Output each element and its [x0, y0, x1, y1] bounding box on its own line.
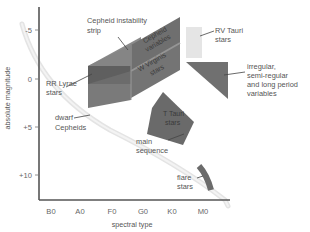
x-tick-label: G0: [138, 207, 148, 216]
rr-lyrae-label: stars: [46, 88, 62, 97]
t-tauri-label: T Tauri: [163, 110, 185, 117]
x-tick-label: M0: [198, 207, 209, 216]
rv-tauri-label: RV Tauri: [215, 26, 243, 35]
x-tick-label: F0: [108, 207, 117, 216]
main-sequence-label: main: [136, 137, 152, 146]
x-tick-label: A0: [75, 207, 84, 216]
irregular-label: and long period: [247, 80, 298, 89]
cepheid-strip-label: strip: [87, 26, 101, 35]
dwarf-cepheids-label: Cepheids: [55, 123, 87, 132]
cepheid-strip-label: Cepheid instability: [87, 16, 147, 25]
rr-lyrae-label: RR Lyrae: [46, 79, 77, 88]
y-tick-label: -5: [25, 26, 32, 35]
rv-tauri-label: stars: [215, 35, 231, 44]
x-tick-label: K0: [167, 207, 176, 216]
main-sequence-label: sequence: [136, 146, 168, 155]
t-tauri-label: stars: [165, 119, 181, 126]
y-tick-label: +5: [23, 123, 32, 132]
diagram-labels: -5 0 +5 +10 absolute magnitude B0 A0 F0 …: [0, 0, 310, 232]
dwarf-cepheids-label: dwarf: [55, 113, 74, 122]
y-tick-label: +10: [19, 171, 32, 180]
y-axis-label: absolute magnitude: [3, 67, 12, 130]
y-tick-label: 0: [28, 75, 32, 84]
irregular-label: variables: [247, 89, 277, 98]
x-axis-label: spectral type: [112, 220, 153, 229]
flare-stars-label: flare: [177, 173, 191, 182]
x-tick-label: B0: [46, 207, 55, 216]
irregular-label: semi-regular: [247, 71, 289, 80]
flare-stars-label: stars: [177, 182, 193, 191]
irregular-label: irregular,: [247, 62, 276, 71]
